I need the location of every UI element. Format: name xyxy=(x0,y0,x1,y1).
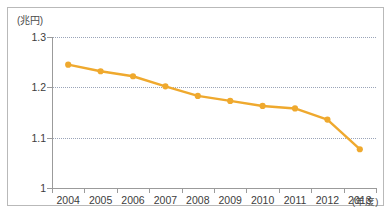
y-axis-tick-label: 1 xyxy=(40,182,46,194)
y-axis-tick-mark xyxy=(47,87,53,88)
x-axis-unit-label: (年度) xyxy=(352,194,378,208)
x-axis-tick-mark xyxy=(376,188,377,193)
x-axis-tick-mark xyxy=(246,188,247,193)
gridline xyxy=(52,37,376,38)
gridline-group xyxy=(52,37,376,188)
y-axis-tick-label: 1.1 xyxy=(31,132,46,144)
x-axis-tick-label: 2012 xyxy=(316,194,339,206)
x-axis-tick-mark xyxy=(117,188,118,193)
x-axis-tick-label: 2010 xyxy=(251,194,274,206)
x-axis-tick-mark xyxy=(214,188,215,193)
x-axis-tick-label: 2006 xyxy=(121,194,144,206)
y-axis-tick-label-group: 1.31.21.11 xyxy=(8,0,46,218)
x-axis-tick-mark xyxy=(311,188,312,193)
x-axis-tick-mark xyxy=(279,188,280,193)
y-axis-tick-label: 1.3 xyxy=(31,31,46,43)
chart-figure: (兆円) 1.31.21.11 200420052006200720082009… xyxy=(0,0,392,218)
y-axis-line xyxy=(52,37,53,189)
x-axis-tick-mark xyxy=(52,188,53,193)
y-axis-tick-label: 1.2 xyxy=(31,81,46,93)
x-axis-tick-label: 2008 xyxy=(186,194,209,206)
gridline xyxy=(52,87,376,88)
x-axis-tick-label: 2007 xyxy=(154,194,177,206)
x-axis-tick-label: 2009 xyxy=(219,194,242,206)
x-axis-tick-mark xyxy=(149,188,150,193)
x-axis-tick-mark xyxy=(344,188,345,193)
gridline xyxy=(52,138,376,139)
x-axis-tick-label: 2004 xyxy=(57,194,80,206)
x-axis-tick-mark xyxy=(182,188,183,193)
x-axis-tick-label: 2005 xyxy=(89,194,112,206)
y-axis-tick-mark xyxy=(47,138,53,139)
y-axis-tick-mark xyxy=(47,37,53,38)
plot-area xyxy=(52,37,376,188)
x-axis-tick-mark xyxy=(84,188,85,193)
x-axis-tick-label: 2011 xyxy=(284,194,307,206)
